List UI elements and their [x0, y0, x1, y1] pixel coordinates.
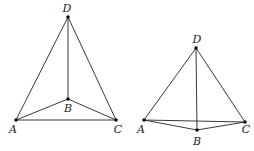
vertex-C: [114, 118, 118, 122]
edge-AD: [144, 48, 196, 120]
edge-AD: [16, 17, 68, 120]
vertex-A: [14, 118, 18, 122]
vertex-label-A: A: [136, 123, 145, 136]
edge-DC: [68, 17, 116, 120]
vertex-label-D: D: [192, 33, 202, 46]
vertex-label-B: B: [63, 102, 72, 115]
vertex-label-A: A: [8, 123, 17, 136]
left-tetrahedron-figure: DBAC: [8, 2, 123, 136]
edge-DB: [196, 48, 197, 130]
right-tetrahedron-figure: DACB: [136, 33, 251, 148]
edge-BC: [68, 99, 116, 120]
vertex-label-C: C: [114, 123, 123, 136]
vertex-label-D: D: [62, 2, 72, 15]
vertex-label-C: C: [242, 123, 251, 136]
edge-AB: [144, 120, 197, 130]
vertex-D: [194, 46, 198, 50]
edge-AB: [16, 99, 68, 120]
vertex-A: [142, 118, 146, 122]
vertex-label-B: B: [192, 135, 201, 148]
vertex-B: [195, 128, 199, 132]
vertex-B: [66, 97, 70, 101]
tetrahedron-diagrams: DBAC DACB: [0, 0, 254, 151]
vertex-D: [66, 15, 70, 19]
edge-BC: [197, 122, 245, 130]
edge-DC: [196, 48, 245, 122]
edge-AC: [144, 120, 245, 122]
